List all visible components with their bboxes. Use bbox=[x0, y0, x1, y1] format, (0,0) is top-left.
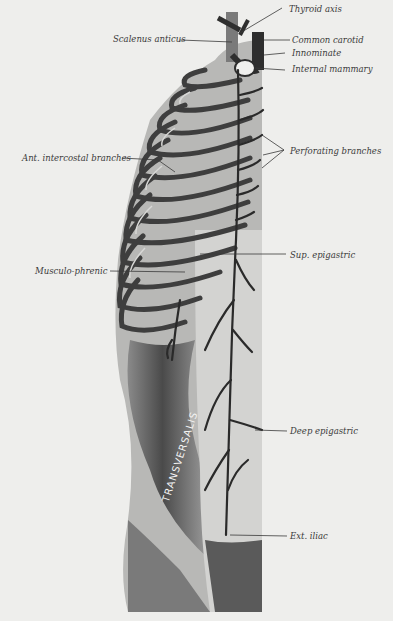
label-musculo-phrenic: Musculo-phrenic bbox=[35, 266, 107, 276]
label-ext-iliac: Ext. iliac bbox=[290, 531, 328, 541]
label-common-carotid: Common carotid bbox=[292, 35, 364, 45]
label-perforating-branches: Perforating branches bbox=[290, 146, 381, 156]
label-internal-mammary: Internal mammary bbox=[292, 64, 372, 74]
torso bbox=[115, 40, 262, 612]
label-scalenus-anticus: Scalenus anticus bbox=[113, 34, 186, 44]
label-deep-epigastric: Deep epigastric bbox=[290, 426, 358, 436]
anatomy-illustration bbox=[0, 0, 393, 621]
label-sup-epigastric: Sup. epigastric bbox=[290, 250, 355, 260]
label-ant-intercostal-branches: Ant. intercostal branches bbox=[22, 153, 131, 163]
label-thyroid-axis: Thyroid axis bbox=[289, 4, 342, 14]
label-innominate: Innominate bbox=[292, 48, 341, 58]
